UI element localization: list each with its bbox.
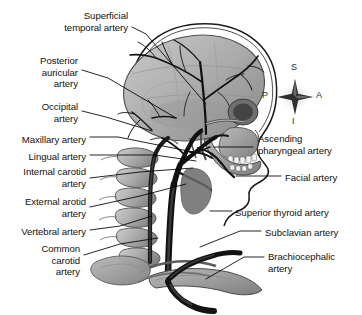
artery-label-occipital-artery: Occipital artery <box>12 101 78 124</box>
compass-superior-label: S <box>291 62 297 72</box>
artery-label-ascending-pharyngeal-artery: Ascending pharyngeal artery <box>258 133 358 156</box>
compass-anterior-label: A <box>316 90 322 100</box>
artery-label-subclavian-artery: Subclavian artery <box>265 227 361 239</box>
artery-label-posterior-auricular-artery: Posterior auricular artery <box>12 55 78 90</box>
artery-label-lingual-artery: Lingual artery <box>4 151 86 163</box>
compass-posterior-label: P <box>262 90 268 100</box>
artery-label-external-arotid-artery: External arotid artery <box>4 196 86 219</box>
anatomical-figure-page: Superficial temporal arteryPosterior aur… <box>0 0 362 315</box>
artery-label-superior-thyroid-artery: Superior thyroid artery <box>235 207 361 219</box>
leader-subclavian <box>200 231 261 247</box>
larynx-thyroid-silhouette <box>181 168 212 213</box>
artery-label-internal-carotid-artery: Internal carotid artery <box>4 166 86 189</box>
artery-label-facial-artery: Facial artery <box>285 172 361 184</box>
anatomical-orientation-indicator <box>277 79 313 115</box>
compass-inferior-label: I <box>292 116 295 126</box>
artery-label-common-carotid-artery: Common carotid artery <box>14 243 80 278</box>
artery-label-superficial-temporal-artery: Superficial temporal artery <box>16 10 128 33</box>
common-carotid-trunk <box>168 184 174 280</box>
artery-label-maxillary-artery: Maxillary artery <box>4 134 86 146</box>
artery-label-brachiocephalic-artery: Brachiocephalic artery <box>268 251 360 274</box>
artery-label-vertebral-artery: Vertebral artery <box>4 226 86 238</box>
scapula-fragment <box>91 256 150 285</box>
